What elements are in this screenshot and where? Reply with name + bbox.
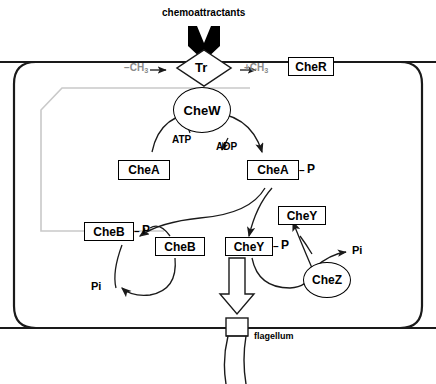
cher-node[interactable]: CheR bbox=[288, 57, 334, 76]
chey-node[interactable]: CheY bbox=[278, 206, 326, 225]
methylation-label: +CH3 bbox=[244, 63, 268, 74]
flagellum-label: flagellum bbox=[254, 332, 294, 341]
flagellar-motor bbox=[226, 318, 248, 336]
chea-p-node[interactable]: CheA bbox=[247, 160, 299, 180]
chez-to-chey-arc bbox=[293, 222, 312, 268]
chey-phosphate-label: P bbox=[281, 239, 289, 251]
chey-phosphate-link: – bbox=[273, 242, 279, 252]
diagram-vector-layer bbox=[0, 0, 436, 384]
chemotaxis-diagram: chemoattractants Tr −CH3 +CH3 CheR CheW … bbox=[0, 0, 436, 384]
chea-phosphate-link: – bbox=[299, 166, 305, 176]
cheb-phosphate-link: – bbox=[134, 227, 140, 237]
pi-right-label: Pi bbox=[352, 245, 362, 256]
cheb-phosphate-label: P bbox=[142, 224, 150, 236]
chea-p-to-cheb-arc bbox=[140, 188, 265, 236]
chez-node[interactable]: CheZ bbox=[303, 262, 351, 298]
chew-node[interactable]: CheW bbox=[173, 87, 231, 133]
chemoattractants-label: chemoattractants bbox=[162, 8, 245, 18]
cheb-dephosphorylation-arc bbox=[122, 258, 175, 295]
motor-signal-block-arrow bbox=[220, 258, 254, 314]
cheb-node[interactable]: CheB bbox=[155, 237, 205, 256]
cheb-p-to-pi-arc bbox=[115, 245, 122, 288]
adp-label: ADP bbox=[216, 142, 237, 152]
cheb-p-node[interactable]: CheB bbox=[84, 222, 134, 241]
atp-label: ATP bbox=[172, 135, 191, 145]
receptor-label: Tr bbox=[195, 61, 207, 74]
flagellum-filament bbox=[224, 336, 246, 384]
chea-node[interactable]: CheA bbox=[118, 160, 170, 180]
chea-phosphate-label: P bbox=[307, 163, 315, 175]
demethylation-label: −CH3 bbox=[124, 63, 148, 74]
pi-left-label: Pi bbox=[91, 281, 101, 292]
chey-p-node[interactable]: CheY bbox=[225, 237, 273, 256]
